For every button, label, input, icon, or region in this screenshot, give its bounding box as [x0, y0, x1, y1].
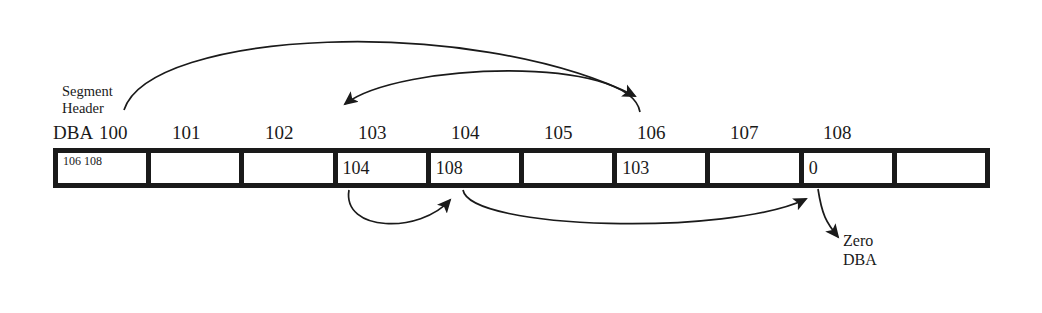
block-cell-value-103: 104	[338, 158, 370, 178]
dba-tick-107: 107	[730, 122, 759, 144]
arrow-106-to-103	[345, 71, 640, 112]
segment-header-block-diagram: Segment Header DBA 100 101 102 103 104 1…	[0, 0, 1042, 313]
dba-tick-100: 100	[99, 122, 128, 144]
dba-tick-103: 103	[358, 122, 387, 144]
dba-tick-106: 106	[637, 122, 666, 144]
segment-header-callout-line1: Segment	[62, 83, 113, 100]
zero-dba-annotation-line2: DBA	[843, 250, 877, 269]
block-cell-105	[524, 153, 612, 183]
arrow-header-to-106	[124, 42, 635, 110]
dba-tick-102: 102	[265, 122, 294, 144]
block-cell-value-104: 108	[431, 158, 463, 178]
block-cell-102	[244, 153, 332, 183]
block-cell-107	[710, 153, 798, 183]
dba-tick-108: 108	[823, 122, 852, 144]
block-cell-100: 106 108	[58, 153, 146, 183]
dba-tick-101: 101	[172, 122, 201, 144]
segment-header-callout: Segment Header	[62, 83, 113, 117]
block-cell-108: 0	[804, 153, 892, 183]
dba-tick-105: 105	[544, 122, 573, 144]
dba-label-row: DBA 100 101 102 103 104 105 106 107 108	[53, 122, 990, 146]
block-cell-value-108: 0	[804, 158, 818, 178]
dba-tick-104: 104	[451, 122, 480, 144]
arrow-103-to-104	[349, 190, 450, 224]
segment-header-callout-line2: Header	[62, 100, 113, 117]
block-cell-106: 103	[617, 153, 705, 183]
block-cell-101	[151, 153, 239, 183]
arrow-104-to-108	[463, 190, 806, 224]
block-cell-103: 104	[338, 153, 426, 183]
dba-prefix-label: DBA	[53, 122, 93, 144]
block-cell-value-100: 106 108	[58, 153, 102, 168]
zero-dba-annotation: Zero DBA	[843, 231, 877, 269]
block-cell-104: 108	[431, 153, 519, 183]
arrow-108-to-zero-dba	[818, 189, 838, 237]
block-cell-trailing	[897, 153, 985, 183]
block-cell-value-106: 103	[617, 158, 649, 178]
block-array: 106 108 104 108 103 0	[53, 148, 990, 188]
zero-dba-annotation-line1: Zero	[843, 231, 877, 250]
